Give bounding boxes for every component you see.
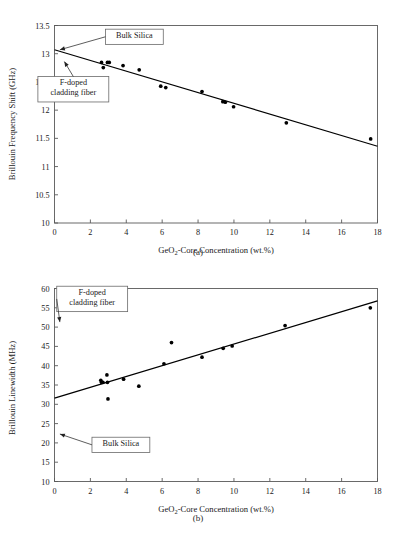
y-tick-label: 50 (41, 323, 49, 332)
figure-caption (8, 534, 388, 545)
data-point (122, 377, 126, 381)
x-tick-label: 2 (88, 487, 92, 496)
data-point (164, 86, 168, 90)
y-tick-label: 60 (41, 285, 49, 294)
y-tick-label: 13.5 (35, 22, 49, 31)
annotation-leader-line (60, 37, 106, 50)
annotation-arrowhead (64, 62, 68, 67)
y-tick-label: 20 (41, 439, 49, 448)
data-point (105, 373, 109, 377)
y-axis-title-b: Brillouin Linewidth (MHz) (7, 341, 17, 435)
data-point (121, 64, 125, 68)
annotation-label: F-doped (79, 288, 106, 297)
y-tick-label: 10 (41, 219, 49, 228)
data-point (369, 137, 373, 141)
x-tick-label: 16 (338, 228, 346, 237)
x-tick-label: 2 (88, 228, 92, 237)
y-tick-label: 10 (41, 478, 49, 487)
data-point (137, 384, 141, 388)
annotation-label: Bulk Silica (116, 31, 153, 40)
data-point (232, 105, 236, 109)
data-point (368, 306, 372, 310)
data-point (200, 90, 204, 94)
y-tick-label: 10.5 (35, 191, 49, 200)
x-tick-label: 10 (230, 487, 238, 496)
y-tick-label: 25 (41, 420, 49, 429)
x-tick-label: 0 (52, 487, 56, 496)
annotation-leader-line (60, 434, 92, 445)
annotation-arrowhead (60, 434, 65, 438)
y-tick-label: 30 (41, 400, 49, 409)
chart-b-data-points (99, 306, 372, 401)
x-tick-label: 16 (338, 487, 346, 496)
x-tick-label: 18 (373, 228, 381, 237)
y-tick-label: 12 (41, 106, 49, 115)
data-point (107, 61, 111, 65)
annotation-label: Bulk Silica (103, 439, 140, 448)
data-point (223, 100, 227, 104)
data-point (101, 66, 105, 70)
chart-a-plot-frame (55, 26, 378, 224)
chart-b-y-axis-title: Brillouin Linewidth (MHz) (7, 341, 17, 435)
figure-container: Brillouin Frequency Shift (GHz) 1010.511… (0, 0, 396, 545)
x-tick-label: 8 (196, 487, 200, 496)
data-point (170, 341, 174, 345)
chart-a-svg: Brillouin Frequency Shift (GHz) 1010.511… (0, 0, 396, 268)
data-point (100, 61, 104, 65)
x-tick-label: 12 (266, 228, 274, 237)
data-point (283, 324, 287, 328)
x-tick-label: 0 (52, 228, 56, 237)
data-point (137, 68, 141, 72)
y-tick-label: 15 (41, 458, 49, 467)
y-tick-label: 40 (41, 362, 49, 371)
x-tick-label: 4 (124, 228, 128, 237)
chart-panel-b: Brillouin Linewidth (MHz) 10152025303540… (0, 266, 396, 528)
chart-b-annotations: F-dopedcladding fiberBulk Silica (57, 286, 150, 452)
chart-a-annotations: Bulk SilicaF-dopedcladding fiber (38, 29, 163, 102)
chart-a-y-tick-labels: 1010.51111.51212.51313.5 (35, 22, 49, 229)
data-point (106, 397, 110, 401)
x-tick-label: 10 (230, 228, 238, 237)
data-point (106, 380, 110, 384)
annotation-label: cladding fiber (69, 298, 115, 307)
annotation-arrowhead (57, 317, 61, 322)
chart-b-y-tick-labels: 1015202530354045505560 (41, 285, 49, 487)
chart-a-tickmarks (55, 26, 378, 224)
x-tick-label: 14 (302, 228, 310, 237)
chart-a-data-points (100, 61, 373, 141)
x-tick-label: 6 (160, 487, 164, 496)
data-point (159, 84, 163, 88)
x-tick-label: 14 (302, 487, 310, 496)
data-point (284, 121, 288, 125)
x-tick-label: 6 (160, 228, 164, 237)
data-point (101, 380, 105, 384)
annotation-arrowhead (60, 46, 65, 50)
subcaption-a: (a) (0, 247, 396, 257)
data-point (200, 355, 204, 359)
subcaption-b: (b) (0, 513, 396, 523)
chart-a-x-tick-labels: 024681012141618 (52, 228, 381, 237)
data-point (230, 344, 234, 348)
annotation-label: F-doped (60, 78, 87, 87)
data-point (162, 362, 166, 366)
y-tick-label: 13 (41, 50, 49, 59)
y-tick-label: 55 (41, 304, 49, 313)
y-tick-label: 11 (42, 163, 50, 172)
x-tick-label: 18 (373, 487, 381, 496)
chart-panel-a: Brillouin Frequency Shift (GHz) 1010.511… (0, 0, 396, 268)
x-tick-label: 4 (124, 487, 128, 496)
chart-b-x-tick-labels: 024681012141618 (52, 487, 381, 496)
x-tick-label: 12 (266, 487, 274, 496)
annotation-label: cladding fiber (50, 88, 96, 97)
data-point (221, 346, 225, 350)
y-tick-label: 45 (41, 342, 49, 351)
chart-a-y-axis-title: Brillouin Frequency Shift (GHz) (7, 68, 17, 181)
chart-b-svg: Brillouin Linewidth (MHz) 10152025303540… (0, 266, 396, 528)
y-tick-label: 35 (41, 381, 49, 390)
y-tick-label: 11.5 (35, 134, 49, 143)
y-axis-title-a: Brillouin Frequency Shift (GHz) (7, 68, 17, 181)
x-tick-label: 8 (196, 228, 200, 237)
